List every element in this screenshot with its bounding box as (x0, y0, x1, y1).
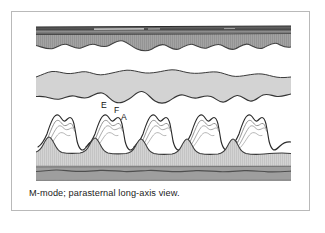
rv-anterior-wall-band (36, 34, 291, 51)
mmode-echocardiogram-image: E F A (36, 25, 291, 181)
wave-annotations: E F A (101, 100, 127, 122)
mmode-tracing-svg: E F A (36, 25, 291, 181)
label-e-wave: E (101, 100, 107, 110)
label-a-wave: A (121, 112, 127, 122)
label-f-point: F (114, 105, 119, 115)
pericardium-band (36, 166, 291, 181)
figure-caption: M-mode; parasternal long-axis view. (29, 187, 299, 199)
mitral-cycle-5 (230, 115, 291, 150)
figure-card: E F A M-mode; parasternal long-axis view… (11, 11, 310, 211)
mitral-valve-traces (38, 115, 291, 150)
lv-posterior-wall-band (36, 137, 291, 166)
interventricular-septum-band (36, 70, 291, 103)
